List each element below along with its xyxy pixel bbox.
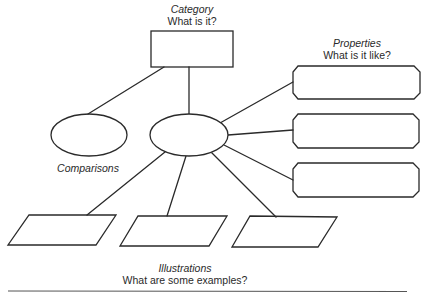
- category-label: Category What is it?: [167, 3, 216, 27]
- connector-center-to-illustration-3: [212, 153, 276, 217]
- illustration-box-2: [120, 216, 227, 246]
- property-box-1: [293, 66, 420, 99]
- category-box: [151, 31, 233, 67]
- category-question: What is it?: [167, 15, 216, 27]
- category-title: Category: [167, 3, 216, 15]
- illustrations-label: Illustrations What are some examples?: [123, 262, 248, 286]
- illustrations-question: What are some examples?: [123, 274, 248, 286]
- connector-category-to-comparison: [88, 67, 164, 114]
- properties-title: Properties: [323, 37, 391, 49]
- illustration-box-3: [232, 216, 337, 247]
- property-box-3: [293, 163, 419, 197]
- comparison-node: [51, 114, 127, 156]
- comparisons-label: Comparisons: [57, 162, 119, 174]
- bottom-rule: [8, 291, 407, 292]
- connector-center-to-property-2: [228, 130, 293, 135]
- connector-center-to-property-1: [220, 82, 293, 123]
- center-node: [150, 114, 228, 156]
- illustration-box-1: [8, 215, 116, 245]
- illustrations-title: Illustrations: [123, 262, 248, 274]
- properties-question: What is it like?: [323, 49, 391, 61]
- connector-center-to-illustration-2: [167, 156, 186, 216]
- property-box-2: [293, 114, 419, 148]
- properties-label: Properties What is it like?: [323, 37, 391, 61]
- comparisons-title: Comparisons: [57, 162, 119, 174]
